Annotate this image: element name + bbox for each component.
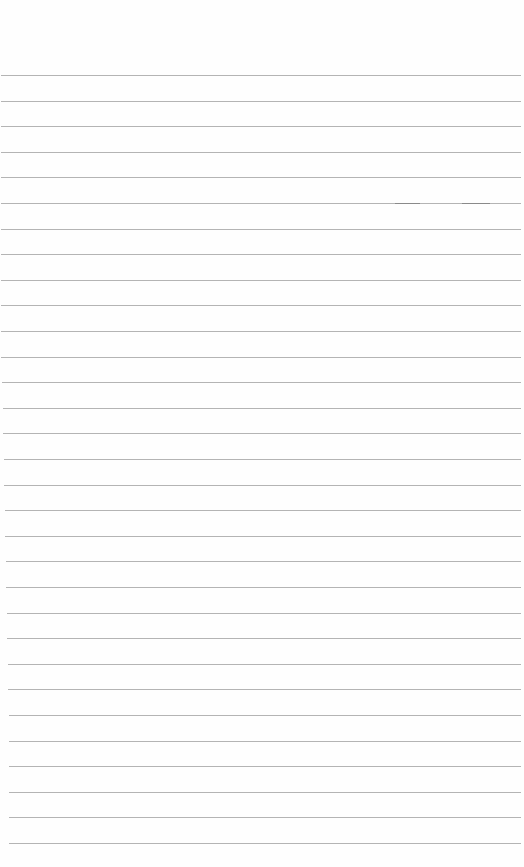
ruled-line [5, 510, 521, 511]
ruled-line [7, 613, 521, 614]
pen-mark [462, 203, 490, 204]
ruled-line [1, 357, 521, 358]
ruled-line [1, 331, 521, 332]
ruled-line [6, 561, 521, 562]
ruled-line [2, 382, 521, 383]
ruled-line [4, 485, 521, 486]
ruled-line [1, 305, 521, 306]
ruled-line [9, 843, 521, 844]
ruled-line [9, 766, 521, 767]
ruled-line [9, 817, 521, 818]
ruled-line [9, 715, 521, 716]
ruled-line [8, 664, 521, 665]
ruled-line [3, 408, 521, 409]
ruled-line [1, 177, 521, 178]
ruled-line [1, 280, 521, 281]
ruled-line [1, 126, 521, 127]
ruled-line [1, 75, 521, 76]
ruled-line [1, 203, 521, 204]
ruled-line [4, 459, 521, 460]
ruled-line [6, 587, 521, 588]
ruled-line [3, 433, 521, 434]
ruled-line [1, 101, 521, 102]
ruled-line [7, 638, 521, 639]
ruled-line [1, 152, 521, 153]
lined-paper-page [0, 0, 524, 867]
ruled-line [8, 689, 521, 690]
ruled-line [9, 792, 521, 793]
ruled-line [1, 254, 521, 255]
ruled-line [9, 741, 521, 742]
pen-mark [395, 203, 420, 204]
ruled-line [1, 229, 521, 230]
ruled-line [5, 536, 521, 537]
